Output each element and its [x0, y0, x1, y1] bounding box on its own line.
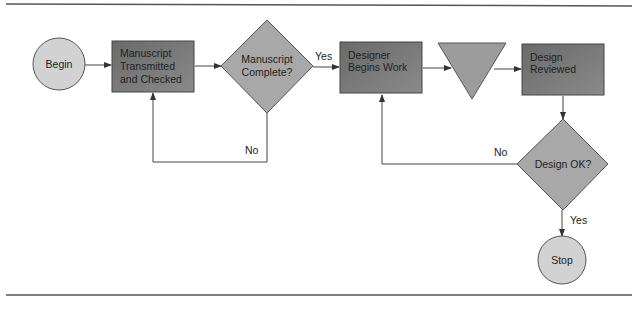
- manuscript-node: Manuscript Transmitted and Checked: [112, 41, 194, 92]
- designer-line-1: Designer: [348, 49, 391, 61]
- begin-node: Begin: [33, 38, 85, 90]
- manuscript-line-1: Manuscript: [120, 47, 171, 59]
- reviewed-line-2: Reviewed: [530, 63, 576, 75]
- stop-label: Stop: [551, 254, 573, 266]
- reviewed-line-1: Design: [530, 51, 563, 63]
- complete-line-2: Complete?: [242, 66, 293, 78]
- design-reviewed-node: Design Reviewed: [522, 44, 604, 95]
- complete-line-1: Manuscript: [241, 53, 292, 65]
- edge-label-yes-2: Yes: [570, 214, 587, 226]
- design-ok-decision: Design OK?: [517, 119, 608, 210]
- manuscript-line-2: Transmitted: [120, 60, 175, 72]
- designer-line-2: Begins Work: [348, 61, 408, 73]
- edge-label-no-2: No: [494, 146, 508, 158]
- edge-label-no-1: No: [245, 144, 259, 156]
- design-ok-label: Design OK?: [535, 158, 592, 170]
- edge-label-yes-1: Yes: [315, 50, 332, 62]
- stop-node: Stop: [538, 236, 586, 284]
- merge-triangle: [438, 43, 506, 99]
- begin-label: Begin: [46, 58, 73, 70]
- top-rule: [6, 4, 632, 6]
- flowchart: Begin Manuscript Transmitted and Checked…: [0, 0, 632, 309]
- manuscript-line-3: and Checked: [120, 73, 182, 85]
- manuscript-complete-decision: Manuscript Complete?: [221, 20, 313, 113]
- designer-node: Designer Begins Work: [340, 42, 422, 93]
